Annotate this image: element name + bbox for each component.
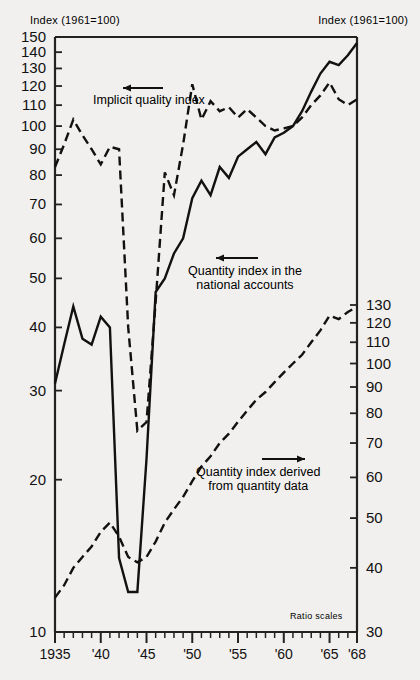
x-tick-label: '45 [137, 646, 155, 662]
left-tick-label: 140 [21, 43, 46, 60]
chart-figure: Index (1961=100) Index (1961=100) 102030… [0, 0, 420, 680]
right-tick-label: 100 [366, 355, 391, 372]
left-tick-label: 30 [29, 382, 46, 399]
right-axis-tick-labels: 30405060708090100110120130 [366, 296, 391, 640]
left-tick-label: 110 [22, 96, 46, 113]
right-tick-label: 50 [366, 509, 383, 526]
series-label-derived-quantity-line1: Quantity index derived [196, 465, 320, 479]
series-line-2 [55, 307, 357, 598]
left-axis-tick-labels: 102030405060708090100110120130140150 [21, 28, 46, 640]
right-tick-label: 60 [366, 468, 383, 485]
derived-quantity-arrow-icon [262, 455, 305, 462]
right-tick-label: 90 [366, 378, 383, 395]
implicit-quality-arrow-icon [123, 84, 163, 91]
data-series-group [55, 43, 357, 598]
right-tick-label: 70 [366, 434, 383, 451]
right-tick-label: 40 [366, 559, 383, 576]
x-axis-tick-labels: 1935'40'45'50'55'60'65'68 [39, 646, 366, 662]
series-label-derived-quantity: Quantity index derived from quantity dat… [196, 465, 320, 493]
series-line-1 [55, 43, 357, 592]
right-tick-label: 30 [366, 623, 383, 640]
x-tick-label: 1935 [39, 646, 70, 662]
ratio-scales-note: Ratio scales [290, 611, 343, 621]
x-tick-label: '55 [229, 646, 247, 662]
right-tick-label: 120 [366, 314, 391, 331]
left-tick-label: 90 [29, 140, 46, 157]
x-tick-label: '60 [275, 646, 293, 662]
left-tick-label: 60 [29, 229, 46, 246]
left-tick-label: 20 [29, 471, 46, 488]
national-accounts-arrow-icon [216, 254, 258, 261]
chart-canvas: 102030405060708090100110120130140150 304… [0, 0, 420, 680]
x-tick-label: '68 [348, 646, 366, 662]
x-tick-label: '65 [320, 646, 338, 662]
plot-frame [55, 37, 357, 632]
left-tick-label: 50 [29, 269, 46, 286]
left-tick-label: 120 [21, 77, 46, 94]
series-label-national-accounts-line2: national accounts [188, 278, 302, 292]
left-tick-label: 40 [29, 318, 46, 335]
left-tick-label: 150 [21, 28, 46, 45]
left-tick-label: 10 [29, 623, 46, 640]
right-tick-label: 130 [366, 296, 391, 313]
series-label-national-accounts: Quantity index in the national accounts [188, 264, 302, 292]
series-label-national-accounts-line1: Quantity index in the [188, 264, 302, 278]
x-tick-label: '40 [92, 646, 110, 662]
series-label-implicit-quality: Implicit quality index [93, 93, 205, 107]
series-line-0 [55, 82, 357, 430]
left-tick-label: 80 [29, 166, 46, 183]
series-label-derived-quantity-line2: from quantity data [196, 479, 320, 493]
left-tick-label: 70 [29, 195, 46, 212]
x-tick-label: '50 [183, 646, 201, 662]
left-tick-label: 100 [21, 117, 46, 134]
right-tick-label: 110 [366, 333, 390, 350]
right-tick-label: 80 [366, 404, 383, 421]
x-axis-ticks [55, 632, 357, 643]
left-tick-label: 130 [21, 59, 46, 76]
